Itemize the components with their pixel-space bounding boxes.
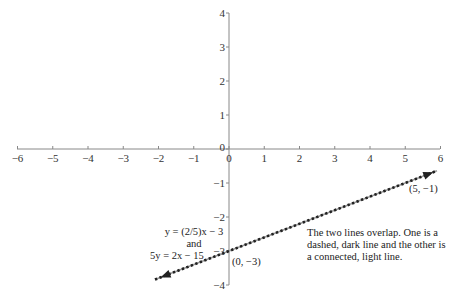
y-tick-label: 0 <box>220 141 226 153</box>
x-tick-label: 0 <box>226 152 232 164</box>
equation-label: y = (2/5)x − 3 and 5y = 2x − 15 <box>149 226 239 262</box>
point-label-0-neg3: (0, −3) <box>232 256 261 268</box>
x-tick-label: −3 <box>117 152 129 164</box>
x-tick-label: 1 <box>262 152 268 164</box>
x-tick-label: −6 <box>12 152 24 164</box>
arrow-left-icon <box>161 270 172 277</box>
y-tick-label: 3 <box>220 41 226 53</box>
x-tick-label: −1 <box>188 152 200 164</box>
x-tick-label: 2 <box>297 152 303 164</box>
y-tick-label: −4 <box>213 279 225 291</box>
x-tick-label: 3 <box>332 152 338 164</box>
point-label-5-neg1: (5, −1) <box>409 183 438 195</box>
overlap-note: The two lines overlap. One is a dashed, … <box>307 227 447 263</box>
equation-2: 5y = 2x − 15 <box>149 250 239 262</box>
x-tick-label: −2 <box>153 152 165 164</box>
x-tick-label: −4 <box>82 152 94 164</box>
x-tick-label: −5 <box>47 152 59 164</box>
y-tick-label: 4 <box>220 7 226 19</box>
y-tick-label: −1 <box>213 177 225 189</box>
equation-joiner: and <box>149 238 239 250</box>
y-tick-label: 2 <box>220 75 226 87</box>
x-tick-label: 5 <box>403 152 409 164</box>
arrow-right-icon <box>422 172 433 179</box>
x-tick-label: 4 <box>367 152 373 164</box>
x-tick-label: 6 <box>438 152 444 164</box>
y-tick-label: 1 <box>220 109 226 121</box>
equation-1: y = (2/5)x − 3 <box>149 226 239 238</box>
y-tick-label: −2 <box>213 211 225 223</box>
